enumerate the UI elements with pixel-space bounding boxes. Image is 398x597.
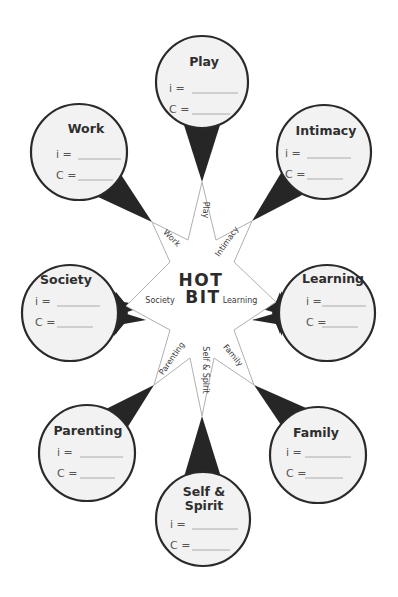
bubble-self-spirit-c-label: C = — [170, 539, 190, 552]
bubble-parenting-c-label: C = — [57, 467, 77, 480]
bubble-society-c-label: C = — [35, 316, 55, 329]
bubble-work-c-label: C = — [56, 169, 76, 182]
center-title-line2: BIT — [185, 287, 220, 307]
bubble-work: Work i = C = — [31, 104, 127, 200]
star-label-society: Society — [145, 296, 175, 305]
bubble-intimacy-c-label: C = — [285, 168, 305, 181]
bubble-parenting-i-label: i = — [57, 446, 73, 459]
bubble-family-circle — [270, 407, 366, 503]
bubble-parenting: Parenting i = C = — [39, 405, 135, 501]
bubble-learning-i-label: i = — [306, 295, 322, 308]
bubble-play: Play i = C = — [156, 36, 248, 128]
bubble-parenting-title: Parenting — [54, 423, 123, 438]
pointer-self-spirit — [184, 416, 221, 477]
bubble-family-c-label: C = — [286, 467, 306, 480]
bubble-work-i-label: i = — [56, 148, 72, 161]
bubble-society: Society i = C = — [22, 265, 118, 361]
bubble-self-spirit: Self & Spirit i = C = — [156, 472, 250, 566]
bubble-learning: Learning i = C = — [279, 265, 375, 361]
bubble-play-title: Play — [189, 54, 219, 69]
bubble-self-spirit-i-label: i = — [170, 518, 186, 531]
bubble-work-circle — [31, 104, 127, 200]
hot-bit-diagram: Play Intimacy Work Society Learning Pare… — [0, 0, 398, 597]
bubble-self-spirit-title-line1: Self & — [183, 484, 226, 499]
bubble-work-title: Work — [68, 121, 105, 136]
bubble-intimacy-title: Intimacy — [296, 123, 357, 138]
bubble-play-i-label: i = — [169, 82, 185, 95]
bubble-society-i-label: i = — [35, 295, 51, 308]
bubble-intimacy: Intimacy i = C = — [277, 105, 371, 199]
bubble-family: Family i = C = — [270, 407, 366, 503]
bubble-society-title: Society — [40, 272, 92, 287]
bubble-intimacy-i-label: i = — [285, 147, 301, 160]
star-label-self-spirit: Self & Spirit — [201, 346, 210, 393]
star-label-learning: Learning — [223, 296, 258, 305]
bubble-play-c-label: C = — [169, 103, 189, 116]
bubble-parenting-circle — [39, 405, 135, 501]
bubble-family-i-label: i = — [286, 446, 302, 459]
bubble-learning-title: Learning — [302, 271, 364, 286]
bubble-family-title: Family — [293, 425, 339, 440]
star-label-play: Play — [201, 202, 210, 219]
bubble-self-spirit-title-line2: Spirit — [185, 498, 224, 513]
pointer-play — [184, 125, 220, 182]
